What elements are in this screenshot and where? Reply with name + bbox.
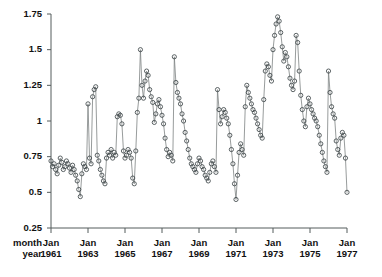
- data-point-marker: [72, 167, 76, 171]
- data-point-marker: [94, 85, 98, 89]
- data-point-marker: [308, 102, 312, 106]
- data-point-marker: [161, 122, 165, 126]
- y-tick-label: 1: [37, 115, 43, 126]
- data-point-marker: [177, 96, 181, 100]
- x-tick-year-label: 1965: [114, 248, 136, 259]
- x-tick-month-label: Jan: [339, 237, 356, 248]
- data-point-marker: [143, 79, 147, 83]
- data-point-marker: [87, 156, 91, 160]
- data-point-marker: [248, 96, 252, 100]
- data-point-marker: [319, 142, 323, 146]
- data-point-marker: [342, 133, 346, 137]
- y-tick-label: 1.25: [24, 79, 43, 90]
- axis-labels: monthyear: [13, 237, 42, 259]
- x-tick-year-label: 1977: [336, 248, 357, 259]
- data-point-marker: [329, 105, 333, 109]
- data-point-marker: [163, 136, 167, 140]
- data-point-marker: [331, 112, 335, 116]
- data-point-marker: [314, 119, 318, 123]
- data-point-marker: [239, 142, 243, 146]
- data-point-marker: [285, 55, 289, 59]
- data-point-marker: [326, 69, 330, 73]
- data-point-marker: [91, 95, 95, 99]
- data-point-marker: [151, 100, 155, 104]
- data-point-marker: [78, 195, 82, 199]
- data-point-marker: [135, 110, 139, 114]
- data-series: [49, 15, 349, 202]
- data-point-marker: [185, 139, 189, 143]
- x-tick-year-label: 1971: [225, 248, 247, 259]
- data-point-marker: [208, 170, 212, 174]
- row-label-year: year: [22, 248, 42, 259]
- x-tick-year-label: 1961: [40, 248, 62, 259]
- data-point-marker: [234, 197, 238, 201]
- data-point-marker: [141, 96, 145, 100]
- data-point-marker: [52, 162, 56, 166]
- data-point-marker: [231, 162, 235, 166]
- data-point-marker: [140, 83, 144, 87]
- data-point-marker: [279, 30, 283, 34]
- data-point-marker: [66, 162, 70, 166]
- data-point-marker: [266, 65, 270, 69]
- x-tick-month-label: Jan: [191, 237, 208, 248]
- data-point-marker: [240, 147, 244, 151]
- x-tick-month-label: Jan: [302, 237, 319, 248]
- data-point-marker: [255, 122, 259, 126]
- data-point-marker: [77, 187, 81, 191]
- data-point-marker: [137, 96, 141, 100]
- data-point-marker: [286, 65, 290, 69]
- data-point-marker: [292, 79, 296, 83]
- data-point-marker: [97, 159, 101, 163]
- data-point-marker: [98, 167, 102, 171]
- data-point-marker: [245, 83, 249, 87]
- data-point-marker: [317, 133, 321, 137]
- data-point-marker: [272, 33, 276, 37]
- data-point-marker: [282, 59, 286, 63]
- data-point-marker: [260, 136, 264, 140]
- data-point-marker: [121, 149, 125, 153]
- data-point-marker: [89, 162, 93, 166]
- data-point-marker: [232, 182, 236, 186]
- y-tick-label: 0.5: [29, 186, 43, 197]
- data-point-marker: [336, 147, 340, 151]
- data-point-marker: [229, 147, 233, 151]
- x-tick-year-label: 1975: [299, 248, 321, 259]
- data-point-marker: [345, 190, 349, 194]
- data-point-marker: [186, 147, 190, 151]
- data-point-marker: [214, 170, 218, 174]
- row-label-month: month: [13, 237, 42, 248]
- x-axis: Jan1961Jan1963Jan1965Jan1967Jan1969Jan19…: [40, 228, 357, 259]
- data-point-marker: [138, 48, 142, 52]
- data-point-marker: [322, 159, 326, 163]
- data-point-marker: [320, 150, 324, 154]
- data-point-marker: [134, 149, 138, 153]
- data-point-marker: [128, 150, 132, 154]
- x-tick-month-label: Jan: [117, 237, 134, 248]
- data-point-marker: [74, 173, 78, 177]
- x-tick-month-label: Jan: [228, 237, 245, 248]
- chart-container: 0.250.50.7511.251.51.75 Jan1961Jan1963Ja…: [0, 0, 382, 277]
- data-point-marker: [152, 120, 156, 124]
- data-point-marker: [114, 153, 118, 157]
- data-point-marker: [54, 167, 58, 171]
- data-point-marker: [58, 156, 62, 160]
- data-point-marker: [249, 102, 253, 106]
- data-point-marker: [235, 173, 239, 177]
- data-point-marker: [75, 179, 79, 183]
- data-point-marker: [333, 116, 337, 120]
- data-point-marker: [160, 113, 164, 117]
- x-tick-year-label: 1963: [77, 248, 98, 259]
- data-point-marker: [277, 19, 281, 23]
- data-point-marker: [218, 122, 222, 126]
- data-point-marker: [223, 110, 227, 114]
- data-point-marker: [299, 93, 303, 97]
- data-point-marker: [225, 116, 229, 120]
- data-point-marker: [294, 33, 298, 37]
- data-point-marker: [80, 172, 84, 176]
- data-point-marker: [158, 105, 162, 109]
- data-point-marker: [103, 182, 107, 186]
- data-point-marker: [202, 167, 206, 171]
- data-point-marker: [296, 40, 300, 44]
- data-point-marker: [328, 90, 332, 94]
- y-tick-label: 0.75: [24, 150, 43, 161]
